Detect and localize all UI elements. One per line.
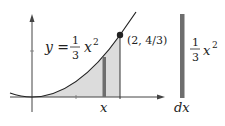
svg-text:3: 3 bbox=[72, 49, 79, 62]
area-diagram: y = 1 3 x 2 (2, 4/3) x 1 3 x 2 dx bbox=[0, 0, 225, 126]
y-axis-arrow-icon bbox=[30, 14, 35, 22]
endpoint-marker bbox=[117, 32, 123, 38]
separate-slice bbox=[180, 14, 185, 98]
svg-text:2: 2 bbox=[93, 37, 99, 47]
x-label: x bbox=[100, 100, 108, 115]
slice-strip bbox=[103, 57, 107, 97]
dx-label: dx bbox=[174, 100, 190, 115]
svg-text:3: 3 bbox=[192, 51, 199, 64]
x-axis-arrow-icon bbox=[157, 95, 165, 100]
svg-text:y =: y = bbox=[44, 39, 69, 55]
point-label: (2, 4/3) bbox=[127, 34, 167, 47]
svg-text:1: 1 bbox=[72, 34, 79, 47]
svg-text:x: x bbox=[84, 39, 92, 55]
svg-text:2: 2 bbox=[212, 40, 218, 50]
slice-height-label: 1 3 x 2 bbox=[190, 36, 218, 64]
svg-text:1: 1 bbox=[192, 36, 199, 49]
equation-label: y = 1 3 x 2 bbox=[44, 34, 99, 62]
svg-text:x: x bbox=[203, 43, 211, 58]
